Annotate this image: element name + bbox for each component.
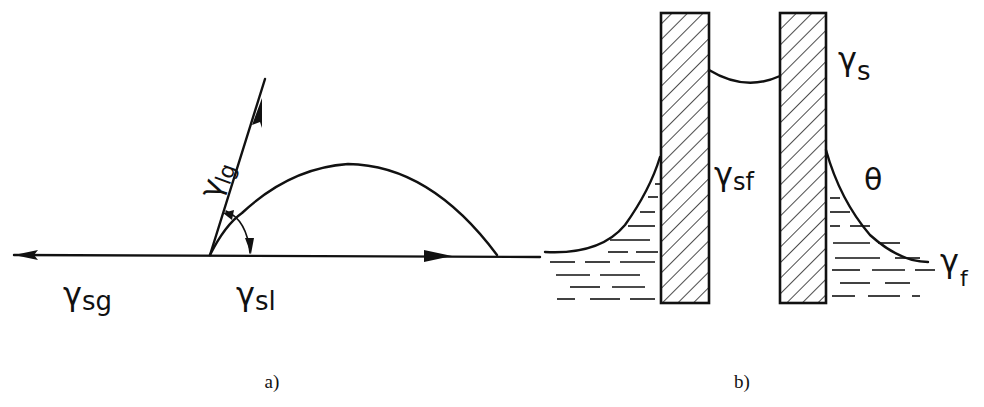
svg-text:f: f: [960, 266, 969, 291]
svg-text:sl: sl: [255, 286, 276, 316]
figure: γ lg γ sg γ sl a): [0, 0, 984, 407]
label-gamma-f: γ f: [940, 242, 969, 291]
label-gamma-lg: γ lg: [192, 156, 241, 204]
plate-right: [780, 13, 826, 303]
liquid-right: [830, 198, 935, 296]
surface-line: [14, 255, 540, 257]
caption-b: b): [734, 371, 750, 393]
svg-text:γ: γ: [940, 242, 959, 280]
panel-b: γ s γ sf θ γ f b): [545, 13, 969, 393]
svg-text:γ: γ: [838, 40, 857, 78]
svg-text:s: s: [857, 56, 871, 86]
label-gamma-sg: γ sg: [63, 275, 112, 316]
label-theta: θ: [864, 162, 882, 197]
meniscus-left: [545, 157, 660, 252]
label-gamma-sl: γ sl: [236, 275, 276, 316]
label-gamma-sf: γ sf: [714, 155, 755, 196]
svg-text:γ: γ: [714, 155, 733, 193]
svg-text:sg: sg: [82, 286, 112, 316]
plate-left: [661, 13, 709, 303]
caption-a: a): [265, 371, 280, 393]
svg-text:γ: γ: [63, 275, 82, 313]
svg-text:sf: sf: [733, 168, 755, 196]
meniscus-inner: [709, 70, 780, 83]
panel-a: γ lg γ sg γ sl a): [14, 79, 540, 393]
label-gamma-s: γ s: [838, 40, 871, 86]
svg-text:γ: γ: [236, 275, 255, 313]
arrow-sl-head: [424, 250, 452, 262]
